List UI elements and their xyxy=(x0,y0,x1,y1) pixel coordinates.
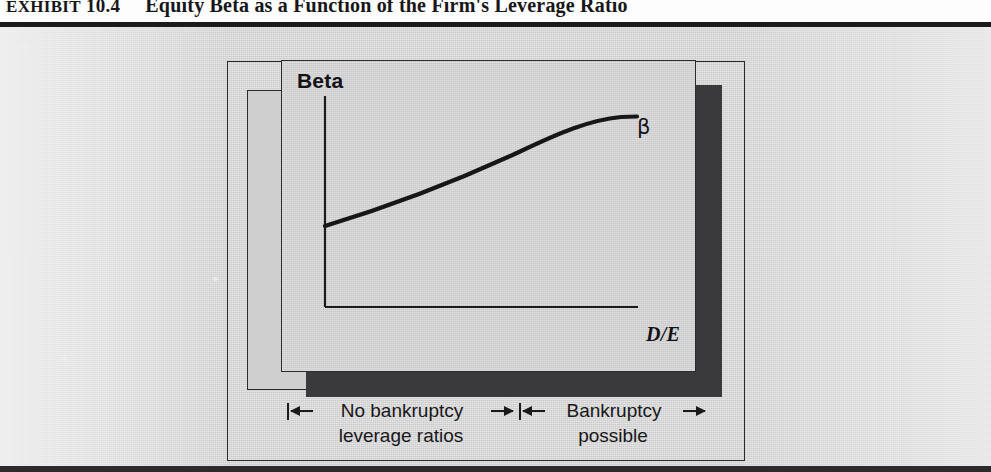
annotation-bankruptcy-line1: Bankruptcy xyxy=(547,400,681,422)
exhibit-title: Exhibit 10.4 Equity Beta as a Function o… xyxy=(6,0,628,17)
exhibit-page: Exhibit 10.4 Equity Beta as a Function o… xyxy=(0,0,991,472)
footer-divider xyxy=(0,466,991,472)
exhibit-number: 10.4 xyxy=(86,0,120,16)
beta-curve xyxy=(325,117,637,227)
region-annotations: No bankruptcy Bankruptcy leverage ratios… xyxy=(287,400,707,452)
annotation-bankruptcy-line2: possible xyxy=(519,424,707,448)
annotation-no-bankruptcy-line2: leverage ratios xyxy=(287,424,515,448)
exhibit-caption: Equity Beta as a Function of the Firm's … xyxy=(145,0,627,16)
arrow-left-icon xyxy=(291,410,313,412)
beta-curve-label: β xyxy=(637,115,650,139)
range-tick-icon xyxy=(519,403,521,420)
paper-shade-left xyxy=(0,27,230,472)
beta-leverage-plot xyxy=(281,60,696,372)
scan-speck xyxy=(62,357,67,361)
annotation-bankruptcy-possible: Bankruptcy xyxy=(519,400,707,422)
exhibit-header: Exhibit 10.4 Equity Beta as a Function o… xyxy=(0,0,991,22)
annotation-no-bankruptcy-line1: No bankruptcy xyxy=(315,400,489,422)
arrow-left-icon xyxy=(523,410,545,412)
paper-shade-right xyxy=(731,27,991,472)
scan-speck xyxy=(213,277,218,281)
exhibit-label: Exhibit xyxy=(6,0,81,16)
figure-page-background: Beta β D/E No bankruptcy xyxy=(0,27,991,472)
x-axis-label: D/E xyxy=(646,323,680,346)
annotation-no-bankruptcy: No bankruptcy xyxy=(287,400,515,422)
arrow-right-icon xyxy=(491,410,513,412)
annotation-row-top: No bankruptcy Bankruptcy xyxy=(287,400,707,422)
scan-speck xyxy=(22,45,27,49)
arrow-right-icon xyxy=(683,410,705,412)
range-tick-icon xyxy=(287,403,289,420)
